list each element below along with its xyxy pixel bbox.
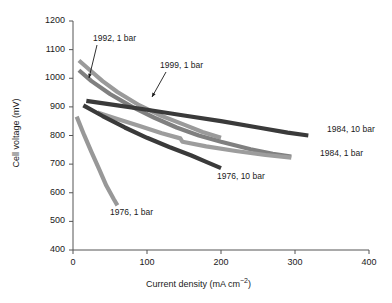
series-line [77, 117, 118, 206]
series-annotation-label: 1976, 10 bar [217, 171, 265, 181]
x-tick-label: 100 [127, 257, 167, 267]
y-tick-label: 1000 [0, 72, 65, 82]
y-axis-label: Cell voltage (mV) [11, 78, 21, 188]
x-axis-label-exponent: −2 [240, 277, 248, 284]
series-annotation-label: 1984, 1 bar [320, 148, 363, 158]
y-tick-label: 1100 [0, 44, 65, 54]
series-annotation-label: 1992, 1 bar [93, 33, 136, 43]
y-tick-label: 900 [0, 101, 65, 111]
y-tick-label: 1200 [0, 15, 65, 25]
chart-figure: 4005006007008009001000110012000100200300… [0, 0, 392, 303]
y-tick-label: 500 [0, 215, 65, 225]
x-axis-label-main: Current density (mA cm [146, 279, 240, 289]
y-tick-label: 400 [0, 244, 65, 254]
y-tick-label: 800 [0, 130, 65, 140]
y-tick-label: 600 [0, 187, 65, 197]
x-tick-label: 400 [349, 257, 389, 267]
series-annotation-label: 1999, 1 bar [160, 60, 203, 70]
data-series-group [77, 61, 309, 206]
x-axis-label-tail: ) [248, 279, 251, 289]
x-tick-label: 200 [201, 257, 241, 267]
y-tick-label: 700 [0, 158, 65, 168]
x-tick-label: 300 [275, 257, 315, 267]
x-axis-label: Current density (mA cm−2) [146, 277, 251, 289]
series-annotation-label: 1984, 10 bar [327, 124, 375, 134]
x-tick-label: 0 [53, 257, 93, 267]
annotation-arrow-1999 [152, 72, 166, 97]
series-line [79, 61, 221, 138]
series-annotation-label: 1976, 1 bar [110, 207, 153, 217]
